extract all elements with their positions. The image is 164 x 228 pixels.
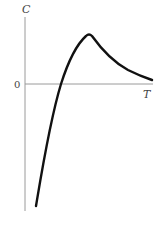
origin-tick-label: 0: [14, 79, 20, 90]
data-curve: [36, 35, 152, 207]
x-axis-label: T: [143, 88, 152, 101]
chart: C T 0: [0, 0, 164, 228]
y-axis-label: C: [22, 3, 31, 16]
